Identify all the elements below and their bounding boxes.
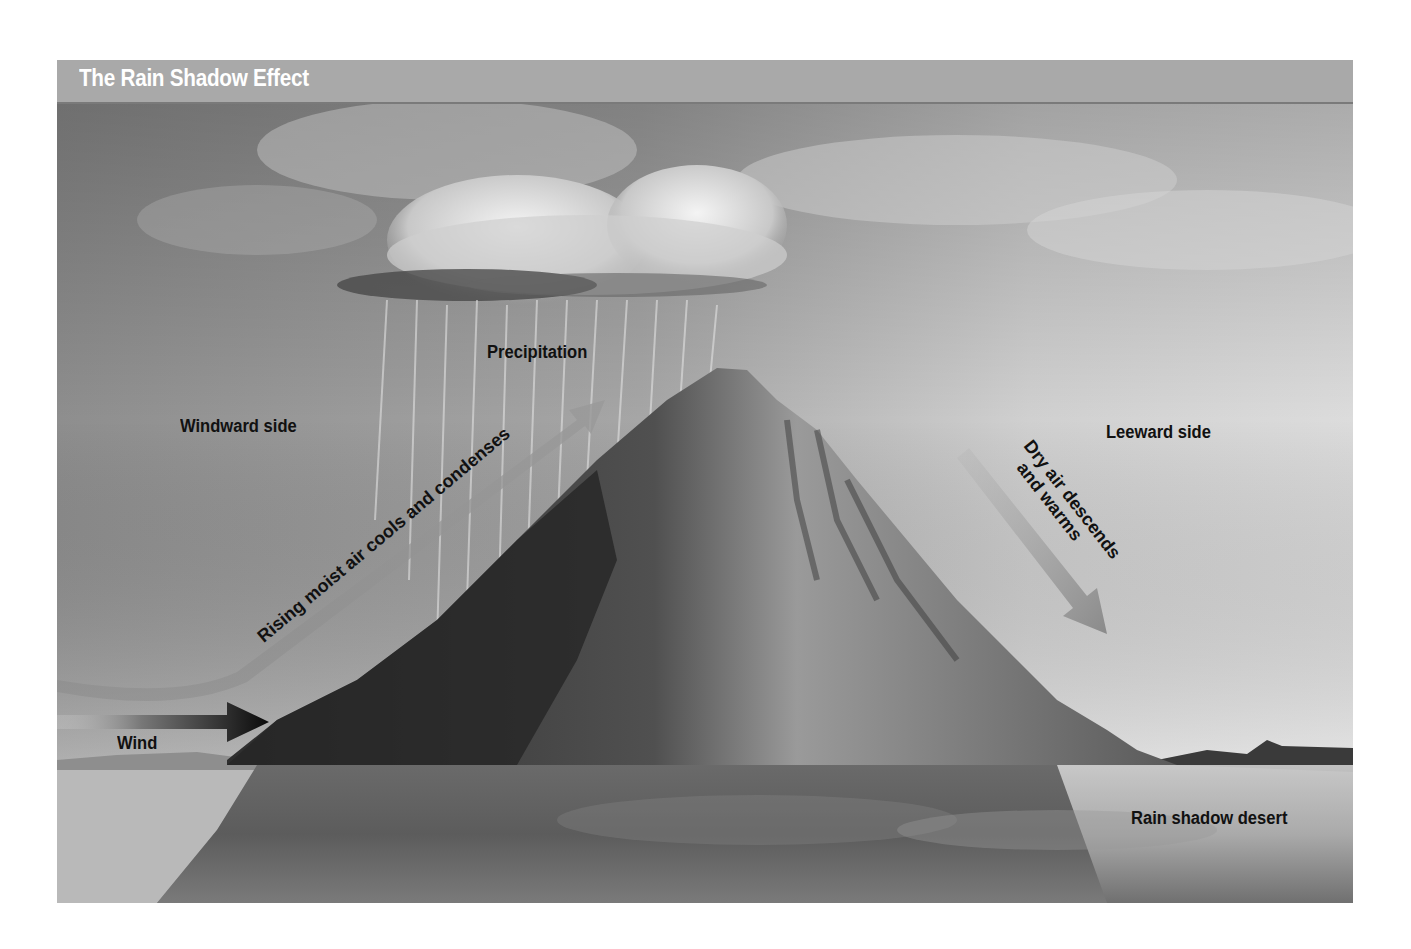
title-bar: The Rain Shadow Effect: [57, 60, 1353, 104]
rain-shadow-figure: The Rain Shadow Effect Precipitation Win…: [57, 60, 1353, 903]
figure-title: The Rain Shadow Effect: [79, 65, 309, 92]
windward-side-label: Windward side: [180, 416, 297, 437]
leeward-side-label: Leeward side: [1106, 422, 1211, 443]
precipitation-label: Precipitation: [487, 342, 587, 363]
rain-shadow-desert-label: Rain shadow desert: [1131, 808, 1287, 829]
wind-label: Wind: [117, 733, 157, 754]
scene-illustration: [57, 60, 1353, 903]
